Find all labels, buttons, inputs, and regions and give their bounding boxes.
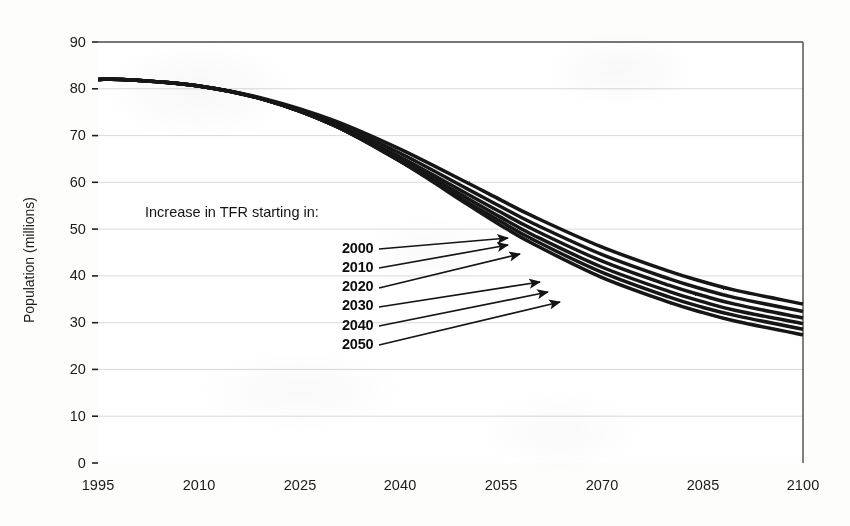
- plot-background: [98, 42, 803, 463]
- x-tick-label-2100: 2100: [773, 477, 833, 493]
- y-tick-label-80: 80: [44, 80, 86, 96]
- series-label-2050: 2050: [342, 336, 373, 352]
- x-tick-label-2040: 2040: [370, 477, 430, 493]
- y-tick-label-90: 90: [44, 34, 86, 50]
- chart-figure: Population (millions) 90 80 70 60 50 40 …: [0, 0, 850, 526]
- series-label-2030: 2030: [342, 297, 373, 313]
- series-label-2010: 2010: [342, 259, 373, 275]
- series-label-2040: 2040: [342, 317, 373, 333]
- x-tick-label-1995: 1995: [68, 477, 128, 493]
- y-tick-label-50: 50: [44, 221, 86, 237]
- right-gutter-mask: [804, 42, 850, 463]
- annotation-heading: Increase in TFR starting in:: [145, 204, 319, 220]
- y-tick-label-30: 30: [44, 314, 86, 330]
- y-tick-label-0: 0: [44, 455, 86, 471]
- x-tick-label-2085: 2085: [673, 477, 733, 493]
- y-tick-label-70: 70: [44, 127, 86, 143]
- series-label-2020: 2020: [342, 278, 373, 294]
- x-tick-label-2025: 2025: [270, 477, 330, 493]
- y-tick-label-40: 40: [44, 267, 86, 283]
- y-tick-label-60: 60: [44, 174, 86, 190]
- population-projection-chart: [0, 0, 850, 526]
- y-axis-title: Population (millions): [21, 160, 37, 360]
- x-tick-label-2070: 2070: [572, 477, 632, 493]
- y-axis: [92, 42, 98, 463]
- series-label-2000: 2000: [342, 240, 373, 256]
- x-tick-label-2010: 2010: [169, 477, 229, 493]
- y-tick-label-10: 10: [44, 408, 86, 424]
- y-tick-label-20: 20: [44, 361, 86, 377]
- x-tick-label-2055: 2055: [471, 477, 531, 493]
